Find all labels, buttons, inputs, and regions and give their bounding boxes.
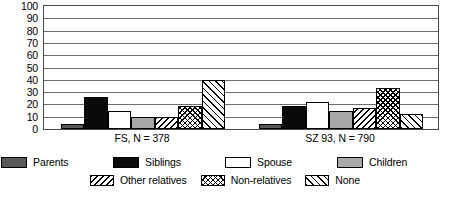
legend-label: Spouse xyxy=(257,157,292,168)
bar xyxy=(61,124,85,129)
y-tick-label: 90 xyxy=(27,13,38,24)
legend-item[interactable]: Children xyxy=(337,157,449,168)
legend-label: Other relatives xyxy=(120,175,187,186)
y-tick-label: 50 xyxy=(27,62,38,73)
solid-dark-gray-swatch xyxy=(1,157,27,168)
y-tick-label: 60 xyxy=(27,50,38,61)
bar xyxy=(282,106,306,129)
y-tick-label: 0 xyxy=(32,124,38,135)
legend-item[interactable]: Spouse xyxy=(225,157,337,168)
legend-row-2: Other relativesNon-relativesNone xyxy=(0,171,450,189)
y-tick-label: 30 xyxy=(27,87,38,98)
solid-light-gray-swatch xyxy=(337,157,363,168)
y-tick-label: 80 xyxy=(27,25,38,36)
legend-label: None xyxy=(335,175,360,186)
y-tick-label: 100 xyxy=(21,1,38,12)
bar xyxy=(131,117,155,129)
legend-label: Siblings xyxy=(145,157,181,168)
backslash-hatch-swatch xyxy=(90,175,114,186)
crosshatch-swatch xyxy=(201,175,225,186)
legend-item[interactable]: Other relatives xyxy=(90,175,187,186)
legend-label: Parents xyxy=(33,157,69,168)
y-tick-label: 40 xyxy=(27,75,38,86)
bar xyxy=(155,117,179,129)
grouped-bar-chart: 1009080706050403020100 FS, N = 378SZ 93,… xyxy=(0,0,450,204)
slash-hatch-swatch xyxy=(305,175,329,186)
bar xyxy=(84,97,108,129)
solid-white-swatch xyxy=(225,157,251,168)
legend-item[interactable]: None xyxy=(305,175,360,186)
bar xyxy=(353,108,377,129)
x-tick-label: FS, N = 378 xyxy=(43,132,241,144)
y-axis-tick-labels: 1009080706050403020100 xyxy=(0,5,41,130)
bar xyxy=(306,102,330,129)
bar xyxy=(376,88,400,129)
legend-item[interactable]: Non-relatives xyxy=(201,175,292,186)
bar-group xyxy=(259,6,424,129)
bar xyxy=(108,111,132,129)
bar xyxy=(400,114,424,129)
y-tick-label: 10 xyxy=(27,111,38,122)
bar xyxy=(259,124,283,129)
x-tick-label: SZ 93, N = 790 xyxy=(241,132,439,144)
y-tick-label: 70 xyxy=(27,38,38,49)
bar xyxy=(202,80,226,129)
y-tick-label: 20 xyxy=(27,99,38,110)
legend-label: Children xyxy=(369,157,407,168)
bar xyxy=(329,111,353,129)
legend-row-1: ParentsSiblingsSpouseChildren xyxy=(0,153,450,171)
bar xyxy=(178,106,202,129)
plot-area xyxy=(43,5,439,130)
bars-layer xyxy=(44,6,438,129)
solid-black-swatch xyxy=(113,157,139,168)
legend-label: Non-relatives xyxy=(231,175,292,186)
legend-item[interactable]: Siblings xyxy=(113,157,225,168)
bar-group xyxy=(61,6,226,129)
legend-item[interactable]: Parents xyxy=(1,157,113,168)
plot-area-wrapper: 1009080706050403020100 FS, N = 378SZ 93,… xyxy=(0,0,450,150)
legend: ParentsSiblingsSpouseChildren Other rela… xyxy=(0,153,450,189)
